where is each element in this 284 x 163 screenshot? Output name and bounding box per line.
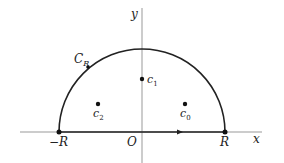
origin-label: O — [127, 135, 137, 149]
x-axis-label: x — [253, 132, 260, 146]
endpoint-left-label: −R — [49, 135, 68, 149]
endpoint-right-dot — [223, 130, 228, 135]
point-c1-label: c1 — [147, 73, 158, 88]
point-c1 — [140, 77, 144, 81]
endpoint-right-label: R — [219, 135, 229, 149]
point-c2-label: c2 — [93, 107, 104, 122]
point-c0 — [183, 102, 187, 106]
point-c0-sub: 0 — [186, 114, 190, 122]
arrow-icon — [177, 130, 183, 135]
contour-label-main: C — [74, 52, 83, 66]
point-c2-sub: 2 — [99, 114, 103, 122]
endpoint-left-dot — [57, 130, 62, 135]
contour-label: CR — [74, 52, 89, 68]
point-c0-label: c0 — [180, 107, 191, 122]
point-c2 — [96, 102, 100, 106]
contour-diagram: y x O −R R CR c1 c2 c0 — [0, 0, 284, 163]
y-axis-label: y — [130, 7, 138, 21]
contour-label-sub: R — [82, 59, 89, 68]
point-c1-sub: 1 — [153, 80, 157, 88]
